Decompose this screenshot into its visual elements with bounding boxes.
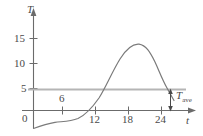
x-axis-label: t [186,115,189,126]
x-tick-label-18: 18 [122,114,133,125]
x-tick-label-24: 24 [155,114,166,125]
figure-container: T t 15 10 5 0 6 12 18 24 Tave [0,0,203,136]
y-tick-label-15: 15 [14,33,25,44]
x-tick-label-6: 6 [59,93,65,104]
origin-label: 0 [22,113,28,124]
y-tick-label-5: 5 [21,83,27,94]
y-tick-label-10: 10 [14,58,25,69]
y-axis-label: T [27,4,33,15]
temperature-plot [0,0,203,136]
t-ave-label: Tave [176,90,192,104]
temperature-curve [34,44,175,128]
x-tick-label-12: 12 [89,114,100,125]
t-ave-subscript: ave [182,96,192,104]
